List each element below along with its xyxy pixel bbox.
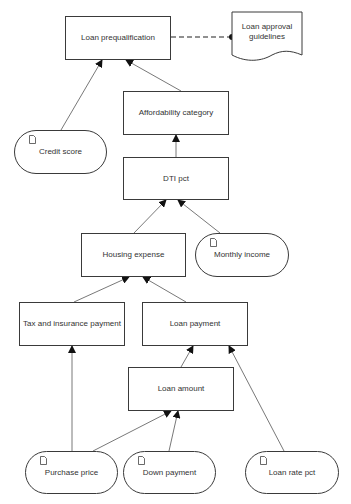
edge-rate-to-loanpayment	[229, 346, 284, 451]
node-purchase-price[interactable]: Purchase price	[25, 451, 118, 494]
document-icon	[210, 238, 217, 247]
edge-loanamount-to-loanpayment	[181, 346, 193, 367]
node-housing-expense[interactable]: Housing expense	[81, 233, 186, 277]
edge-credit-score-to-prequalification	[61, 60, 102, 130]
edge-income-to-dti	[178, 200, 220, 233]
edge-affordability-to-prequalification	[126, 60, 181, 91]
document-icon	[260, 456, 267, 465]
node-loan-approval-guidelines[interactable]: Loan approval guidelines	[236, 22, 298, 42]
node-loan-rate-pct[interactable]: Loan rate pct	[245, 451, 339, 494]
node-monthly-income[interactable]: Monthly income	[195, 233, 289, 277]
node-loan-payment[interactable]: Loan payment	[142, 302, 248, 346]
document-icon	[138, 456, 145, 465]
node-tax-insurance-payment[interactable]: Tax and insurance payment	[19, 302, 125, 346]
node-label: Loan rate pct	[269, 468, 316, 478]
node-label: Credit score	[39, 147, 82, 157]
edge-loanpayment-to-housing	[143, 277, 186, 302]
node-label: DTI pct	[163, 174, 189, 184]
node-loan-prequalification[interactable]: Loan prequalification	[65, 16, 171, 60]
node-credit-score[interactable]: Credit score	[14, 130, 107, 174]
node-label: Loan payment	[170, 319, 221, 329]
edge-tax-to-housing	[74, 277, 129, 302]
node-label: Affordability category	[139, 108, 214, 118]
node-label: Housing expense	[103, 250, 165, 260]
edge-purchase-to-loanamount	[93, 411, 171, 451]
node-label: Purchase price	[45, 468, 98, 478]
document-icon	[40, 456, 47, 465]
node-label: Loan amount	[158, 384, 205, 394]
node-label: Loan prequalification	[81, 33, 155, 43]
node-label: Tax and insurance payment	[23, 319, 121, 329]
edge-down-to-loanamount	[169, 411, 178, 451]
node-down-payment[interactable]: Down payment	[123, 451, 216, 494]
node-dti-pct[interactable]: DTI pct	[123, 157, 229, 200]
edge-housing-to-dti	[134, 200, 166, 233]
node-label: Down payment	[143, 468, 196, 478]
document-icon	[29, 135, 36, 144]
node-loan-amount[interactable]: Loan amount	[128, 367, 234, 411]
node-label: Monthly income	[214, 250, 270, 260]
node-affordability-category[interactable]: Affordability category	[123, 91, 229, 135]
